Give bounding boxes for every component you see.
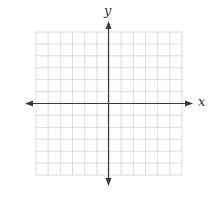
coordinate-plane	[0, 0, 221, 197]
axes	[25, 21, 193, 186]
arrow-right-icon	[185, 101, 193, 107]
x-axis-label: x	[198, 95, 205, 108]
arrow-left-icon	[25, 101, 33, 107]
y-axis-label: y	[104, 4, 111, 17]
arrow-up-icon	[106, 21, 112, 29]
arrow-down-icon	[106, 178, 112, 186]
